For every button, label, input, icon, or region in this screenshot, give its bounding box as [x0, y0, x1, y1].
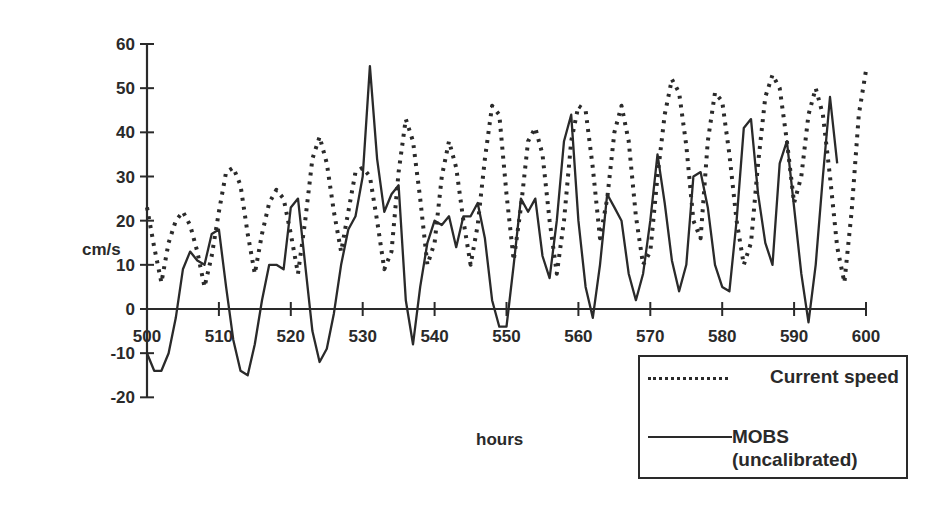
y-tick-label: 20 — [116, 212, 135, 231]
y-tick-label: 60 — [116, 35, 135, 54]
x-tick-label: 590 — [780, 327, 808, 346]
y-tick-label: -10 — [110, 344, 135, 363]
legend-label-mobs: MOBS — [732, 426, 789, 448]
x-tick-label: 510 — [205, 327, 233, 346]
x-tick-label: 540 — [420, 327, 448, 346]
x-tick-label: 580 — [708, 327, 736, 346]
x-tick-label: 570 — [636, 327, 664, 346]
x-tick-label: 550 — [492, 327, 520, 346]
y-tick-label: 0 — [126, 300, 135, 319]
x-tick-label: 560 — [564, 327, 592, 346]
x-axis-label: hours — [476, 430, 523, 449]
y-tick-label: 40 — [116, 123, 135, 142]
y-tick-label: 30 — [116, 168, 135, 187]
x-tick-label: 520 — [277, 327, 305, 346]
legend-dotted-line-sample — [648, 377, 728, 380]
chart-legend: Current speed MOBS (uncalibrated) — [638, 355, 908, 479]
y-axis-label: cm/s — [82, 240, 121, 259]
chart-axes: 6050403020100-10-20500510520530540550560… — [110, 35, 880, 407]
legend-solid-line-sample — [648, 436, 732, 438]
y-tick-label: -20 — [110, 388, 135, 407]
legend-label-uncalibrated: (uncalibrated) — [732, 449, 858, 471]
x-tick-label: 600 — [852, 327, 880, 346]
legend-label-current-speed: Current speed — [770, 366, 899, 388]
y-tick-label: 50 — [116, 79, 135, 98]
series-current-speed — [147, 71, 866, 287]
x-tick-label: 530 — [349, 327, 377, 346]
x-tick-label: 500 — [133, 327, 161, 346]
